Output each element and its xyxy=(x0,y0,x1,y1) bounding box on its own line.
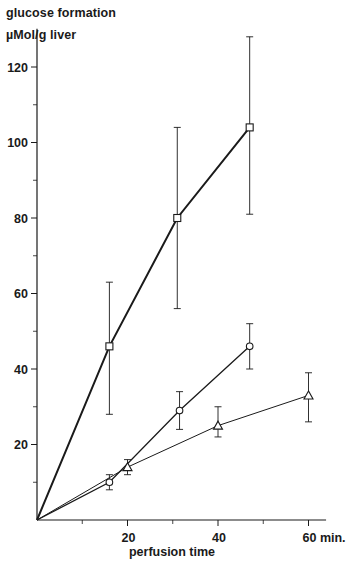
series-line xyxy=(37,127,250,520)
x-axis-title: perfusion time xyxy=(129,545,215,559)
circle-marker xyxy=(246,343,253,350)
triangle-marker xyxy=(304,391,313,399)
y-tick-label: 40 xyxy=(14,363,28,377)
line-chart: 20406080100120204060 min. perfusion time xyxy=(0,0,347,564)
x-tick-label: 40 xyxy=(212,531,226,545)
y-tick-label: 20 xyxy=(14,438,28,452)
y-tick-label: 120 xyxy=(7,61,28,75)
circle-marker xyxy=(106,479,113,486)
x-tick-label: 60 min. xyxy=(303,531,346,545)
triangle-marker xyxy=(214,421,223,429)
y-tick-label: 60 xyxy=(14,287,28,301)
data-series xyxy=(37,37,313,520)
x-tick-label: 20 xyxy=(122,531,136,545)
y-tick-label: 100 xyxy=(7,136,28,150)
series-circle xyxy=(37,324,253,520)
series-line xyxy=(37,395,309,520)
square-marker xyxy=(174,215,181,222)
y-tick-label: 80 xyxy=(14,212,28,226)
circle-marker xyxy=(176,407,183,414)
square-marker xyxy=(246,124,253,131)
square-marker xyxy=(106,343,113,350)
series-square xyxy=(37,37,253,520)
